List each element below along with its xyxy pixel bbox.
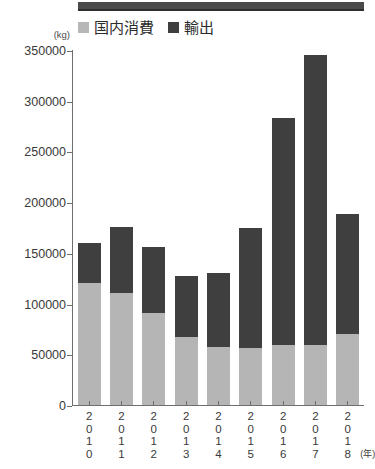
x-axis-tick-mark [283,401,284,406]
legend-swatch-domestic-icon [78,22,89,33]
bar-segment-export [336,214,359,334]
y-axis-tick-mark [67,254,72,255]
y-axis-tick-mark [67,406,72,407]
x-axis-tick-label: 2010 [78,410,101,460]
x-axis-tick-mark [121,401,122,406]
bar-column [142,50,165,405]
bar-segment-domestic [272,345,295,405]
x-axis-unit-label: (年) [360,448,375,461]
bar-segment-domestic [207,347,230,405]
x-axis-tick-mark [186,401,187,406]
bar-segment-domestic [336,334,359,405]
x-axis-tick-label: 2011 [110,410,133,460]
legend-swatch-export-icon [168,22,179,33]
y-axis-tick-mark [67,355,72,356]
bar-column [78,50,101,405]
y-axis-tick-mark [67,203,72,204]
bar-segment-export [110,227,133,294]
bar-column [175,50,198,405]
x-axis-tick-mark [218,401,219,406]
x-axis-tick-mark [89,401,90,406]
y-axis-tick-mark [67,102,72,103]
x-axis-tick-mark [347,401,348,406]
x-axis-tick-label: 2016 [272,410,295,460]
x-axis-tick-label: 2015 [239,410,262,460]
bar-segment-export [304,55,327,345]
y-axis-tick-mark [67,305,72,306]
x-axis-tick-label: 2013 [175,410,198,460]
bar-segment-domestic [78,283,101,405]
chart-legend: 国内消費 輸出 [78,20,214,35]
bar-column [336,50,359,405]
bar-column [207,50,230,405]
bar-segment-export [272,118,295,345]
y-axis-unit: (kg) [28,24,70,42]
bar-column [239,50,262,405]
x-axis-tick-label: 2017 [304,410,327,460]
y-axis-tick-label: 0 [59,399,66,413]
bar-segment-export [142,247,165,313]
y-axis-tick-label: 300000 [24,95,66,109]
bar-segment-domestic [304,345,327,405]
top-decoration-bar [78,2,364,11]
bar-segment-export [239,228,262,349]
plot-area [72,50,364,406]
bar-segment-export [175,276,198,337]
x-axis-tick-label: 2012 [142,410,165,460]
x-axis-tick-mark [315,401,316,406]
x-axis-tick-mark [153,401,154,406]
y-axis-tick-label: 50000 [31,348,66,362]
bar-column [304,50,327,405]
y-axis-tick-mark [67,51,72,52]
bar-segment-domestic [239,348,262,405]
x-axis-tick-labels: 201020112012201320142015201620172018(年) [73,410,364,460]
bar-segment-domestic [175,337,198,405]
y-axis-tick-labels: 3500003000002500002000001500001000005000… [0,50,66,406]
bar-column [110,50,133,405]
x-axis-tick-mark [250,401,251,406]
bar-segment-domestic [110,293,133,405]
x-axis-tick-label: 2014 [207,410,230,460]
legend-item-export: 輸出 [168,20,214,35]
y-axis-tick-label: 150000 [24,247,66,261]
bar-segment-domestic [142,313,165,405]
y-axis-unit-label: (kg) [54,29,70,40]
y-axis-tick-label: 100000 [24,298,66,312]
legend-item-domestic: 国内消費 [78,20,154,35]
bar-segment-export [207,273,230,347]
bar-group [73,50,364,405]
legend-label-export: 輸出 [184,20,214,35]
x-axis-ticks [73,401,364,406]
y-axis-tick-label: 350000 [24,44,66,58]
bar-column [272,50,295,405]
bar-segment-export [78,243,101,284]
y-axis-tick-label: 250000 [24,145,66,159]
y-axis-tick-label: 200000 [24,196,66,210]
legend-label-domestic: 国内消費 [94,20,154,35]
y-axis-tick-mark [67,152,72,153]
x-axis-tick-label: 2018(年) [336,410,359,460]
